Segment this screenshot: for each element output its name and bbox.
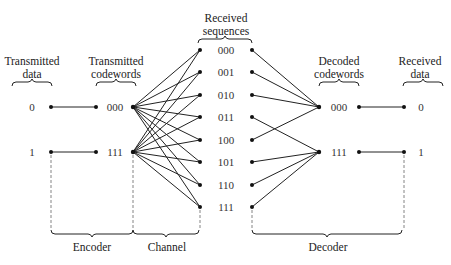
header-received-sequences: Received sequences [192,12,260,38]
header-transmitted-data: Transmitted data [0,55,64,81]
header-line: Received [390,55,450,68]
decoded-codeword-000: 000 [326,101,352,113]
received-sequence: 101 [212,156,240,168]
section-channel-label: Channel [137,241,197,254]
header-line: codewords [305,68,373,81]
received-sequence: 000 [212,44,240,56]
received-sequence: 100 [212,134,240,146]
received-sequence: 010 [212,89,240,101]
header-line: data [390,68,450,81]
section-decoder-label: Decoder [298,241,358,254]
header-decoded-codewords: Decoded codewords [305,55,373,81]
decoded-codeword-111: 111 [326,146,352,158]
received-data-0: 0 [411,101,431,113]
transmitted-codeword-111: 111 [102,146,128,158]
received-sequence: 111 [212,201,240,213]
header-line: codewords [82,68,150,81]
header-line: Transmitted [82,55,150,68]
section-encoder-label: Encoder [62,241,122,254]
brace-decoder [252,230,402,237]
header-received-data: Received data [390,55,450,81]
coding-diagram: Transmitted data Transmitted codewords R… [0,0,451,265]
diagram-lines [0,0,451,265]
header-line: Transmitted [0,55,64,68]
header-line: Decoded [305,55,373,68]
received-sequence: 001 [212,66,240,78]
received-sequence: 110 [212,179,240,191]
header-line: Received [192,12,260,25]
transmitted-codeword-000: 000 [102,101,128,113]
brace-encoder [51,230,133,237]
header-transmitted-codewords: Transmitted codewords [82,55,150,81]
header-line: sequences [192,25,260,38]
transmitted-data-1: 1 [22,146,42,158]
received-data-1: 1 [411,146,431,158]
transmitted-data-0: 0 [22,101,42,113]
brace-channel [133,230,199,237]
received-sequence: 011 [212,111,240,123]
header-line: data [0,68,64,81]
